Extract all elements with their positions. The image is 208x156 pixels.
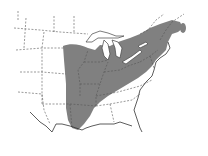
range-map (0, 0, 208, 156)
range-lobe-northeast (180, 23, 186, 33)
